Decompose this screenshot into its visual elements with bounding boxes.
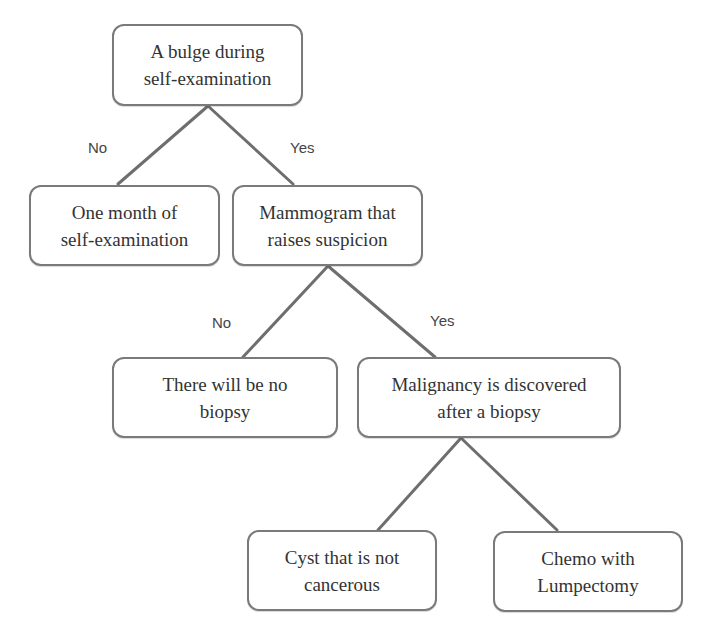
- edge-malignancy-chemo: [461, 438, 557, 530]
- node-text-line1: Cyst that is not: [285, 544, 400, 571]
- edge-malignancy-cyst: [378, 438, 461, 530]
- node-text-line2: cancerous: [285, 571, 400, 598]
- node-text-line2: Lumpectomy: [537, 572, 638, 599]
- edge-mammogram-no: [243, 266, 328, 357]
- edge-label-no: No: [88, 139, 107, 156]
- node-text-line2: after a biopsy: [391, 398, 586, 425]
- node-text-line2: raises suspicion: [259, 226, 396, 253]
- node-text-line2: biopsy: [162, 398, 287, 425]
- node-text-line2: self-examination: [144, 65, 272, 92]
- edge-label-yes: Yes: [430, 312, 454, 329]
- node-chemo-with-lumpectomy: Chemo with Lumpectomy: [493, 531, 683, 612]
- node-cyst-not-cancerous: Cyst that is not cancerous: [247, 530, 437, 611]
- node-text-line2: self-examination: [61, 226, 189, 253]
- node-malignancy-discovered: Malignancy is discovered after a biopsy: [357, 357, 621, 438]
- node-mammogram-raises-suspicion: Mammogram that raises suspicion: [232, 185, 423, 266]
- node-text-line1: There will be no: [162, 371, 287, 398]
- node-bulge-during-self-examination: A bulge during self-examination: [112, 24, 303, 106]
- edge-root-yes: [208, 106, 293, 184]
- node-one-month-self-examination: One month of self-examination: [29, 185, 220, 266]
- node-text-line1: One month of: [61, 199, 189, 226]
- edge-label-yes: Yes: [290, 139, 314, 156]
- edge-root-no: [118, 106, 208, 184]
- node-text-line1: Malignancy is discovered: [391, 371, 586, 398]
- node-text-line1: Chemo with: [537, 545, 638, 572]
- node-no-biopsy: There will be no biopsy: [112, 357, 338, 438]
- node-text-line1: Mammogram that: [259, 199, 396, 226]
- edge-label-no: No: [212, 314, 231, 331]
- edge-mammogram-yes: [328, 266, 435, 357]
- decision-tree-diagram: A bulge during self-examination No Yes O…: [0, 0, 718, 628]
- node-text-line1: A bulge during: [144, 38, 272, 65]
